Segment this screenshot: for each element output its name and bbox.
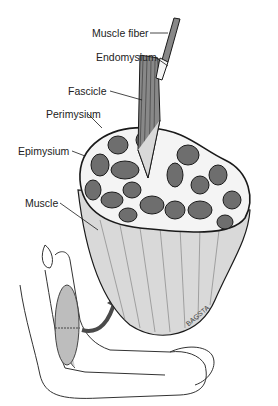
label-muscle: Muscle bbox=[25, 197, 58, 209]
label-epimysium: Epimysium bbox=[18, 145, 69, 157]
label-fascicle: Fascicle bbox=[68, 85, 107, 97]
arrow-icon bbox=[82, 300, 115, 331]
label-perimysium: Perimysium bbox=[46, 108, 101, 120]
label-endomysium: Endomysium bbox=[96, 51, 157, 63]
label-muscle-fiber: Muscle fiber bbox=[92, 27, 149, 39]
single-muscle-fiber bbox=[162, 18, 180, 62]
